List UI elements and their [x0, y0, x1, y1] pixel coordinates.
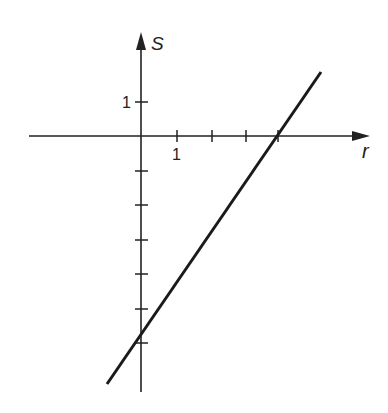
- series-line: [107, 72, 321, 384]
- s-axis-label: S: [151, 33, 164, 54]
- chart-canvas: S r 1 1: [0, 0, 388, 413]
- r-axis-label: r: [362, 140, 370, 162]
- tick-label-s1: 1: [122, 94, 131, 111]
- tick-label-r1: 1: [172, 146, 181, 163]
- s-axis-arrow-icon: [136, 32, 146, 50]
